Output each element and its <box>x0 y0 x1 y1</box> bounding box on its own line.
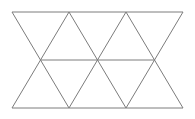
triangular-grid-figure <box>0 0 195 119</box>
